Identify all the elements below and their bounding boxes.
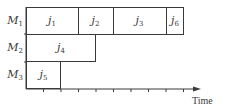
machine-label-m3: M3 — [3, 69, 23, 82]
machine-label-m1: M1 — [3, 15, 23, 28]
job-label-j6: j6 — [166, 15, 184, 28]
job-label-j3: j3 — [113, 15, 166, 28]
machine-label-m2: M2 — [3, 42, 23, 55]
job-label-j4: j4 — [26, 42, 96, 55]
job-label-j5: j5 — [26, 69, 61, 82]
job-label-j1: j1 — [26, 15, 78, 28]
arrow-right-icon — [193, 87, 201, 92]
gantt-chart: M1 M2 M3 j1 j2 j3 j6 j4 j5 Time — [0, 0, 226, 109]
time-axis-label: Time — [192, 95, 213, 106]
job-label-j2: j2 — [78, 15, 113, 28]
